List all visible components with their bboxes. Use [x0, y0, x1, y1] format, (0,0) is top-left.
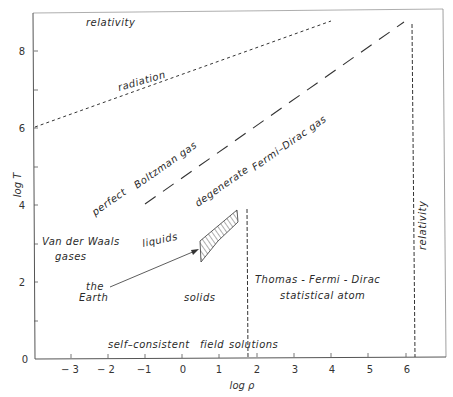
x-tick-minus3: − 3: [61, 364, 79, 375]
radiation-boundary: [35, 21, 331, 127]
y-tick-2: 2: [19, 277, 25, 288]
label-the: the: [86, 281, 104, 292]
label-boltzman-gas: Boltzman gas: [132, 139, 199, 190]
x-tick-2: 2: [254, 364, 260, 375]
plot-frame: [33, 9, 446, 359]
y-tick-4: 4: [19, 200, 25, 211]
relativity-boundary: [412, 24, 415, 357]
label-liquids: liquids: [141, 231, 179, 249]
label-earth: Earth: [79, 292, 108, 303]
x-tick-labels: − 3 − 2 −1 0 1 2 3 4 5 6: [61, 364, 410, 375]
label-solids: solids: [184, 292, 215, 303]
phase-diagram: 8 6 4 2 0 − 3 − 2 −1 0 1 2 3 4 5 6 log ρ…: [0, 0, 453, 397]
label-perfect: perfect: [89, 186, 129, 218]
y-tick-8: 8: [19, 46, 25, 57]
x-tick-5: 5: [367, 364, 373, 375]
x-tick-0: 0: [180, 364, 186, 375]
label-solutions: solutions: [229, 339, 278, 350]
arrow-head-icon: [191, 249, 199, 255]
label-statistical-atom: statistical atom: [280, 290, 365, 301]
x-tick-1: 1: [216, 364, 222, 375]
y-tick-labels: 8 6 4 2 0: [19, 46, 28, 365]
x-tick-minus2: − 2: [97, 364, 115, 375]
degeneracy-boundary: [145, 22, 404, 204]
label-van-der-waals: Van der Waals: [42, 236, 120, 247]
tfd-boundary: [247, 209, 248, 358]
label-relativity-right: relativity: [417, 200, 428, 250]
label-self-consistent: self–consistent: [108, 339, 190, 350]
x-tick-minus1: −1: [137, 364, 152, 375]
label-thomas-fermi-dirac: Thomas - Fermi - Dirac: [255, 274, 380, 285]
label-degenerate: degenerate: [193, 164, 251, 209]
x-axis-title: log ρ: [230, 380, 255, 391]
earth-hatched-region: [200, 210, 238, 262]
y-axis-title: log T: [12, 172, 23, 197]
label-field: field: [200, 339, 224, 350]
y-tick-0: 0: [22, 354, 28, 365]
y-tick-6: 6: [19, 123, 25, 134]
label-gases: gases: [55, 251, 87, 262]
label-relativity-top: relativity: [86, 17, 136, 28]
x-tick-3: 3: [292, 364, 298, 375]
earth-arrow: [110, 249, 199, 287]
label-radiation: radiation: [117, 69, 167, 93]
x-tick-6: 6: [404, 364, 410, 375]
x-tick-4: 4: [329, 364, 335, 375]
